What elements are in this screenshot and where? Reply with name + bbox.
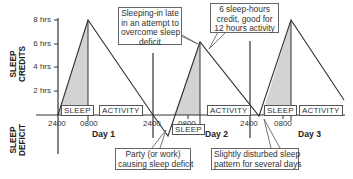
callout-line: deficit: [121, 38, 179, 48]
callout-disturbed-sleep: Slightly disturbed sleep pattern for sev…: [211, 148, 299, 170]
callout-line: causing sleep deficit: [118, 160, 188, 170]
sleep-tag-day3: SLEEP: [264, 105, 297, 116]
y-tick-label-4: 4 hrs: [17, 62, 51, 71]
y-tick-label-6: 6 hrs: [17, 39, 51, 48]
activity-tag-day2: ACTIVITY: [207, 105, 251, 116]
x-tick-0800-day1: 0800: [80, 119, 98, 128]
callout-six-hour-credit: 6 sleep-hours credit, good for 12 hours …: [210, 3, 279, 33]
callout-line: 12 hours activity: [213, 24, 276, 34]
sleep-deficit-axis-title: SLEEP DEFICIT: [9, 119, 27, 161]
x-tick-2400-day2: 2400: [143, 119, 161, 128]
x-tick-2400-day1: 2400: [48, 119, 66, 128]
axis-title-line: DEFICIT: [18, 124, 27, 156]
callout-sleeping-in-late: Sleeping-in late in an attempt to overco…: [118, 7, 182, 45]
callout-party-sleep-deficit: Party (or work) causing sleep deficit: [115, 148, 191, 170]
y-tick-label-8: 8 hrs: [17, 15, 51, 24]
day-label-2: Day 2: [205, 129, 228, 139]
x-tick-2400-day3: 2400: [240, 119, 258, 128]
sleep-tag-day1: SLEEP: [61, 105, 94, 116]
axis-title-line: SLEEP: [9, 127, 18, 154]
y-tick-label-2: 2 hrs: [17, 86, 51, 95]
day-label-3: Day 3: [298, 129, 321, 139]
x-tick-0800-day3: 0800: [274, 119, 292, 128]
activity-tag-day3: ACTIVITY: [299, 105, 343, 116]
activity-tag-day1: ACTIVITY: [99, 105, 143, 116]
sleep-credit-curve: [58, 20, 344, 136]
callout-line: pattern for several days: [214, 160, 296, 170]
day-label-1: Day 1: [92, 129, 115, 139]
sleep-tag-day2: SLEEP: [172, 124, 205, 135]
